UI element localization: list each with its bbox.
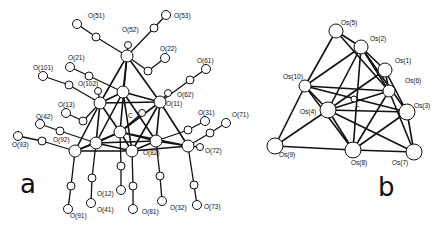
oxygen-label-o101: O(101) [33, 64, 53, 72]
oxygen-label-o93: O(93) [12, 141, 29, 149]
oxygen-label-o71: O(71) [232, 111, 249, 119]
oxygen-label-o51: O(51) [88, 12, 105, 20]
oxygen-label-o102: O(102) [78, 80, 98, 88]
oxygen-label-o13: O(13) [58, 101, 75, 109]
carbide-label-b: C [355, 105, 360, 112]
osmium-label-os8: Os(8) [351, 159, 367, 167]
oxygen-label-o42: O(42) [36, 113, 53, 121]
oxygen-label-o31: O(31) [198, 109, 215, 117]
osmium-label-os10: Os(10) [283, 73, 303, 81]
oxygen-label-o72: O(72) [205, 147, 222, 155]
carbide-label-a: C [128, 112, 133, 119]
osmium-label-os2: Os(2) [370, 35, 386, 43]
oxygen-label-o62: O(62) [177, 91, 194, 99]
oxygen-label-o21: O(21) [68, 54, 85, 62]
oxygen-label-o12: O(12) [97, 190, 114, 198]
oxygen-label-o61: O(61) [197, 57, 214, 65]
oxygen-label-o32: O(32) [170, 204, 187, 212]
oxygen-label-o92: O(92) [53, 136, 70, 144]
osmium-label-os6: Os(6) [405, 77, 421, 85]
panel-b-structure: C [267, 24, 422, 160]
oxygen-label-o52: O(52) [122, 26, 139, 34]
crystal-structure-figure: C O(51)O(53)O(52)O(22)O(21)O(101)O(61)O(… [0, 0, 437, 226]
oxygen-label-o41: O(41) [97, 206, 114, 214]
osmium-label-os4: Os(4) [300, 108, 316, 116]
osmium-label-os7: Os(7) [392, 159, 408, 167]
osmium-label-os3: Os(3) [414, 102, 430, 110]
osmium-label-os1: Os(1) [395, 57, 411, 65]
oxygen-label-o73: O(73) [204, 203, 221, 211]
panel-b-label: b [378, 172, 395, 202]
panel-a-label: a [20, 169, 36, 199]
oxygen-label-o81: O(81) [142, 208, 159, 216]
oxygen-label-o82: O(82) [143, 149, 160, 157]
osmium-label-os9: Os(9) [279, 151, 295, 159]
oxygen-label-o22: O(22) [160, 45, 177, 53]
oxygen-label-o53: O(53) [174, 12, 191, 20]
osmium-label-os5: Os(5) [341, 19, 357, 27]
oxygen-label-o11: O(11) [166, 100, 182, 108]
oxygen-label-o91: O(91) [70, 212, 87, 220]
